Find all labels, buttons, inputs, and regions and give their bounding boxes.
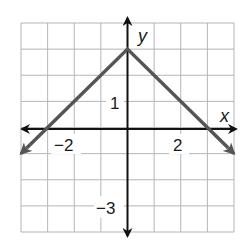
graph-arrow-right-icon (228, 148, 234, 154)
graph-arrow-left-icon (21, 148, 27, 154)
x-tick-label-2: 2 (173, 136, 182, 155)
x-axis-label: x (219, 106, 230, 126)
coordinate-plane: y x −2 2 1 −3 (0, 0, 249, 240)
y-tick-label-neg3: −3 (96, 199, 115, 218)
y-axis-label: y (136, 26, 148, 46)
y-tick-label-1: 1 (110, 94, 119, 113)
x-tick-label-neg2: −2 (54, 136, 73, 155)
